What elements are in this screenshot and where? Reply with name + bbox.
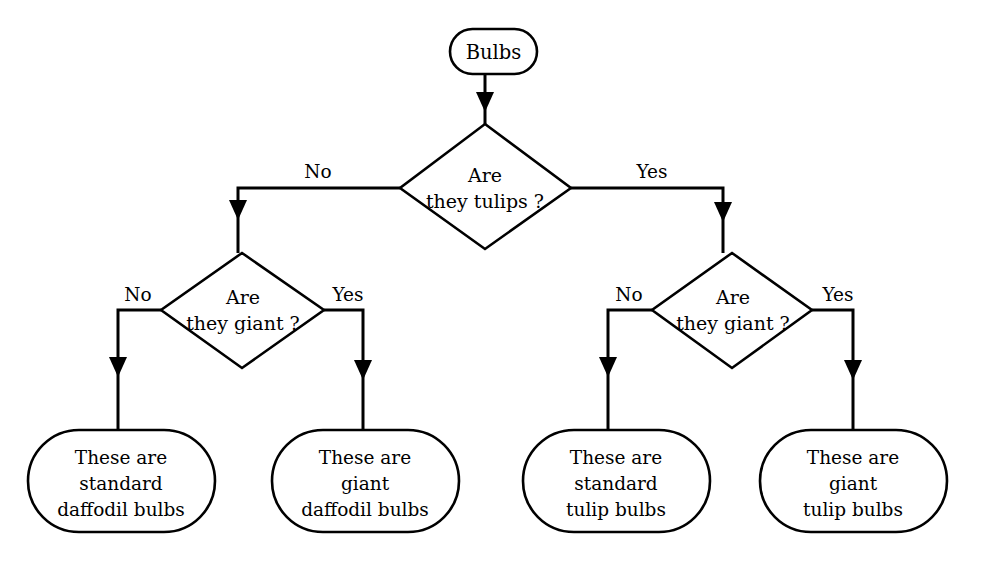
- edge-start-to-tulips: [476, 73, 494, 124]
- edge-label-tulips-no: No: [304, 161, 331, 182]
- edge-giant-right-no: [599, 310, 652, 432]
- edge-tulips-no: [229, 188, 400, 253]
- node-result-standard-daffodil[interactable]: These are standard daffodil bulbs: [28, 430, 215, 532]
- arrow-head-icon: [714, 202, 732, 222]
- node-decision-giant-left[interactable]: Are they giant ?: [161, 253, 324, 368]
- node-label-giant-daffodil-line2: giant: [341, 473, 390, 494]
- node-label-giant-tulip-line1: These are: [807, 447, 899, 468]
- edge-label-giant-right-yes: Yes: [821, 284, 853, 305]
- edge-label-giant-left-no: No: [124, 284, 151, 305]
- arrow-head-icon: [109, 357, 127, 377]
- node-label-standard-daffodil-line1: These are: [75, 447, 167, 468]
- edge-line: [238, 188, 400, 253]
- arrow-head-icon: [599, 357, 617, 377]
- node-label-standard-tulip-line2: standard: [574, 473, 658, 494]
- arrow-head-icon: [354, 360, 372, 380]
- flowchart-canvas: No Yes No Yes No Yes Bulbs Are they tuli…: [0, 0, 982, 566]
- arrow-head-icon: [844, 360, 862, 380]
- arrow-head-icon: [229, 200, 247, 220]
- edge-line: [324, 310, 363, 432]
- node-result-giant-daffodil[interactable]: These are giant daffodil bulbs: [272, 430, 459, 532]
- edge-giant-right-yes: [812, 310, 862, 432]
- edge-line: [608, 310, 652, 432]
- node-shape-diamond: [652, 253, 812, 368]
- node-shape-diamond: [161, 253, 324, 368]
- node-label-giant-right-line1: Are: [715, 286, 750, 308]
- node-label-giant-daffodil-line1: These are: [319, 447, 411, 468]
- node-decision-tulips[interactable]: Are they tulips ?: [400, 124, 571, 249]
- edge-giant-left-yes: [324, 310, 372, 432]
- node-label-giant-left-line1: Are: [225, 286, 260, 308]
- node-label-giant-left-line2: they giant ?: [186, 312, 300, 334]
- edge-label-tulips-yes: Yes: [635, 161, 667, 182]
- flowchart-svg: No Yes No Yes No Yes Bulbs Are they tuli…: [0, 0, 982, 566]
- node-label-tulips-line2: they tulips ?: [426, 190, 544, 212]
- node-shape-diamond: [400, 124, 571, 249]
- edge-line: [571, 188, 723, 253]
- node-label-standard-daffodil-line3: daffodil bulbs: [57, 499, 185, 520]
- edge-giant-left-no: [109, 310, 161, 432]
- node-label-start: Bulbs: [466, 41, 522, 64]
- node-decision-giant-right[interactable]: Are they giant ?: [652, 253, 812, 368]
- edge-line: [118, 310, 161, 432]
- edge-label-giant-right-no: No: [615, 284, 642, 305]
- node-result-standard-tulip[interactable]: These are standard tulip bulbs: [523, 430, 710, 532]
- arrow-head-icon: [476, 92, 494, 112]
- node-label-giant-right-line2: they giant ?: [676, 312, 790, 334]
- node-label-standard-tulip-line3: tulip bulbs: [566, 499, 666, 520]
- edge-tulips-yes: [571, 188, 732, 253]
- node-result-giant-tulip[interactable]: These are giant tulip bulbs: [760, 430, 947, 532]
- node-label-standard-daffodil-line2: standard: [79, 473, 163, 494]
- node-label-giant-daffodil-line3: daffodil bulbs: [301, 499, 429, 520]
- node-label-tulips-line1: Are: [467, 164, 502, 186]
- node-label-giant-tulip-line2: giant: [829, 473, 878, 494]
- edge-line: [812, 310, 853, 432]
- node-start[interactable]: Bulbs: [450, 29, 537, 74]
- edge-label-giant-left-yes: Yes: [331, 284, 363, 305]
- node-label-standard-tulip-line1: These are: [570, 447, 662, 468]
- node-label-giant-tulip-line3: tulip bulbs: [803, 499, 903, 520]
